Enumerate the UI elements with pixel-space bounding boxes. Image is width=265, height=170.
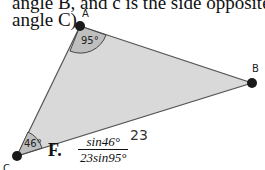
- vertex-c-label: C: [3, 163, 10, 170]
- side-cb-label: 23: [130, 127, 148, 143]
- fraction-denominator: 23sin95°: [78, 150, 128, 165]
- vertex-b-label: B: [252, 63, 259, 74]
- angle-c-label: 46°: [24, 138, 42, 149]
- answer-option-label: F.: [48, 140, 62, 161]
- vertex-c-point: [12, 151, 22, 161]
- fraction-numerator: sin46°: [78, 134, 128, 150]
- vertex-a-point: [75, 21, 85, 31]
- triangle-diagram: A B C 95° 46° 23: [0, 0, 265, 170]
- vertex-b-point: [247, 78, 257, 88]
- vertex-a-label: A: [82, 8, 89, 19]
- angle-a-label: 95°: [81, 35, 99, 46]
- answer-fraction: sin46° 23sin95°: [78, 134, 128, 165]
